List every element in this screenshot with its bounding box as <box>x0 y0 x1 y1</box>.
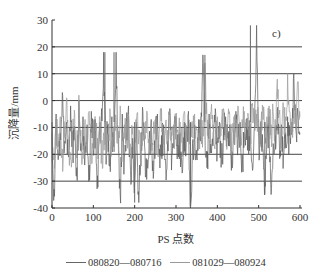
x-axis-title: PS 点数 <box>158 233 195 245</box>
y-tick-label: -10 <box>33 121 48 133</box>
series-line <box>52 63 300 172</box>
panel-label: c) <box>272 27 281 40</box>
x-tick-label: 0 <box>49 211 55 223</box>
legend: 080820—080716 081029—080924 <box>66 254 272 268</box>
legend-line-swatch <box>170 262 190 263</box>
x-tick-label: 200 <box>126 211 143 223</box>
y-tick-labels: 3020100-10-20-30-40 <box>33 14 48 214</box>
x-tick-label: 400 <box>209 211 226 223</box>
settlement-line-chart: 3020100-10-20-30-40 0100200300400500600 … <box>0 0 325 273</box>
y-tick-label: 20 <box>37 41 49 53</box>
x-tick-label: 600 <box>292 211 309 223</box>
legend-label: 080820—080716 <box>88 257 162 268</box>
x-tick-label: 300 <box>168 211 185 223</box>
x-tick-label: 500 <box>250 211 267 223</box>
legend-item: 080820—080716 <box>66 257 162 268</box>
legend-item: 081029—080924 <box>170 257 266 268</box>
data-series <box>52 25 300 208</box>
x-tick-labels: 0100200300400500600 <box>49 211 309 223</box>
y-tick-label: 10 <box>37 68 49 80</box>
y-tick-label: -40 <box>33 202 48 214</box>
legend-line-swatch <box>66 262 86 263</box>
y-tick-label: 30 <box>37 14 49 26</box>
y-tick-label: 0 <box>43 95 49 107</box>
legend-label: 081029—080924 <box>192 257 266 268</box>
y-axis-title: 沉降量/mm <box>7 86 20 140</box>
y-tick-label: -30 <box>33 175 48 187</box>
y-tick-label: -20 <box>33 148 48 160</box>
x-tick-label: 100 <box>85 211 102 223</box>
